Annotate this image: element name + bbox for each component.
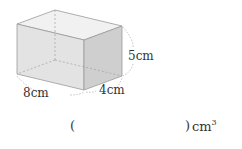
unit-exponent: 3 bbox=[212, 118, 217, 127]
unit-label: cm3 bbox=[192, 118, 217, 134]
answer-input[interactable] bbox=[107, 118, 167, 136]
unit-base: cm bbox=[192, 119, 212, 134]
length-label: 8cm bbox=[23, 86, 49, 100]
close-paren: ) bbox=[185, 118, 190, 133]
open-paren: ( bbox=[70, 118, 75, 133]
answer-blank: ( ) cm3 bbox=[0, 118, 242, 138]
height-label: 5cm bbox=[128, 49, 154, 63]
width-label: 4cm bbox=[99, 83, 125, 97]
